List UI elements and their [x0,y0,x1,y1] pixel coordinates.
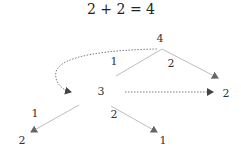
edge-label-mid-to-bottom-left: 1 [32,108,39,119]
edge-root-to-mid [116,49,162,76]
node-right: 2 [223,88,230,99]
node-mid: 3 [98,86,105,97]
edge-mid-to-bottom-right [111,106,157,132]
node-bottom-right: 1 [160,135,167,146]
node-bottom-left: 2 [19,135,26,146]
edge-label-mid-to-bottom-right: 2 [111,109,118,120]
dashed-curve-root-to-mid [56,49,157,92]
tree-diagram: 2 + 2 = 4 4 3 2 2 1 1 2 1 2 [0,0,241,150]
equation-title: 2 + 2 = 4 [87,2,155,16]
edge-label-root-to-right: 2 [168,58,175,69]
diagram-edges [0,0,241,150]
edge-label-root-to-mid: 1 [111,56,118,67]
node-root: 4 [157,33,164,44]
